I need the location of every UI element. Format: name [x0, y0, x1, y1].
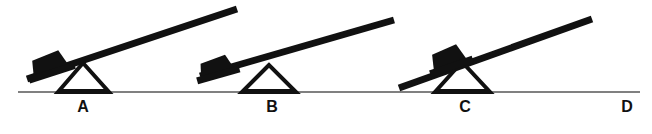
fulcrum-triangle-b	[242, 65, 296, 92]
lever-group-b	[192, 20, 394, 92]
lever-beam-c	[399, 19, 592, 88]
lever-diagram-figure: A B C D	[0, 0, 652, 134]
lever-block-b	[192, 52, 240, 84]
label-a: A	[70, 98, 96, 116]
lever-group-c	[399, 19, 592, 92]
figure-canvas	[0, 0, 652, 134]
label-b: B	[259, 98, 285, 116]
label-c: C	[452, 98, 478, 116]
label-d: D	[614, 98, 640, 116]
